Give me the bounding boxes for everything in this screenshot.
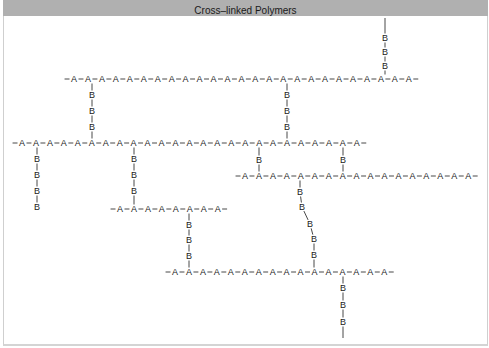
monomer-a: A (392, 74, 398, 84)
monomer-a: A (252, 74, 258, 84)
monomer-a: A (367, 267, 373, 277)
monomer-a: A (159, 204, 165, 214)
monomer-b: B (284, 106, 290, 116)
monomer-a: A (47, 138, 53, 148)
monomer-a: A (308, 74, 314, 84)
monomer-a: A (465, 171, 471, 181)
monomer-a: A (294, 74, 300, 84)
monomer-a: A (325, 267, 331, 277)
monomer-a: A (75, 138, 81, 148)
monomer-a: A (242, 138, 248, 148)
monomer-a: A (71, 74, 77, 84)
monomer-a: A (200, 267, 206, 277)
crosslink-link-c2-c3-right: B (340, 148, 346, 172)
monomer-a: A (298, 138, 304, 148)
monomer-a: A (350, 74, 356, 84)
monomer-a: A (158, 138, 164, 148)
monomer-b: B (34, 186, 40, 196)
monomer-b: B (382, 33, 388, 43)
crosslink-link-c3-c5-zigzag: BBBBB (297, 181, 317, 268)
monomer-a: A (85, 74, 91, 84)
monomer-a: A (33, 138, 39, 148)
monomer-a: A (256, 171, 262, 181)
monomer-a: A (266, 74, 272, 84)
monomer-a: A (141, 74, 147, 84)
monomer-b: B (340, 283, 346, 293)
monomer-a: A (280, 74, 286, 84)
monomer-b: B (131, 154, 137, 164)
monomer-a: A (103, 138, 109, 148)
monomer-a: A (298, 267, 304, 277)
monomer-b: B (382, 61, 388, 71)
monomer-a: A (113, 74, 119, 84)
monomer-a: A (322, 74, 328, 84)
monomer-a: A (270, 138, 276, 148)
monomer-a: A (336, 74, 342, 84)
polymer-chain-chain-4: AAAAAAAA (111, 204, 228, 214)
monomer-a: A (117, 138, 123, 148)
monomer-a: A (326, 171, 332, 181)
monomer-a: A (89, 138, 95, 148)
monomer-a: A (368, 171, 374, 181)
monomer-a: A (381, 267, 387, 277)
monomer-a: A (284, 138, 290, 148)
monomer-a: A (145, 204, 151, 214)
monomer-b: B (382, 47, 388, 57)
monomer-a: A (215, 204, 221, 214)
monomer-a: A (228, 138, 234, 148)
monomer-b: B (299, 202, 305, 212)
monomer-a: A (406, 74, 412, 84)
monomer-b: B (131, 170, 137, 180)
monomer-a: A (270, 171, 276, 181)
monomer-a: A (172, 267, 178, 277)
monomer-a: A (312, 171, 318, 181)
monomer-b: B (340, 317, 346, 327)
monomer-a: A (339, 267, 345, 277)
monomer-a: A (354, 171, 360, 181)
monomer-a: A (284, 267, 290, 277)
monomer-a: A (353, 267, 359, 277)
monomer-b: B (297, 187, 303, 197)
monomer-b: B (307, 219, 313, 229)
monomer-a: A (197, 74, 203, 84)
monomer-a: A (284, 171, 290, 181)
monomer-a: A (214, 267, 220, 277)
monomer-a: A (99, 74, 105, 84)
monomer-a: A (381, 171, 387, 181)
monomer-a: A (173, 204, 179, 214)
crosslink-link-c5-dangling: BBB (340, 277, 346, 339)
monomer-a: A (117, 204, 123, 214)
monomer-b: B (340, 300, 346, 310)
monomer-a: A (183, 74, 189, 84)
crosslink-link-c4-c5: BBB (186, 214, 192, 268)
crosslink-link-c1-c2-right: BBB (284, 84, 290, 139)
monomer-a: A (242, 267, 248, 277)
monomer-b: B (34, 202, 40, 212)
monomer-a: A (201, 204, 207, 214)
monomer-b: B (34, 154, 40, 164)
polymer-diagram: AAAAAAAAAAAAAAAAAAAAAAAAAAAAAAAAAAAAAAAA… (0, 0, 489, 348)
monomer-a: A (437, 171, 443, 181)
monomer-a: A (155, 74, 161, 84)
polymer-chain-chain-2: AAAAAAAAAAAAAAAAAAAAAAAAA (13, 138, 367, 148)
monomer-b: B (340, 155, 346, 165)
monomer-a: A (340, 138, 346, 148)
monomer-a: A (364, 74, 370, 84)
monomer-a: A (214, 138, 220, 148)
monomer-a: A (340, 171, 346, 181)
crosslink-link-top-right: BBB (382, 18, 388, 75)
monomer-a: A (378, 74, 384, 84)
crosslink-link-c2-c3-left: B (256, 148, 262, 172)
monomer-b: B (131, 186, 137, 196)
monomer-a: A (256, 267, 262, 277)
monomer-a: A (210, 74, 216, 84)
monomer-a: A (228, 267, 234, 277)
monomer-a: A (169, 74, 175, 84)
crosslink-link-c2-c4: BBB (131, 148, 137, 205)
monomer-a: A (326, 138, 332, 148)
monomer-a: A (131, 138, 137, 148)
monomer-b: B (186, 220, 192, 230)
crosslink-link-c2-dangling: BBBB (34, 148, 40, 213)
polymer-chain-chain-5: AAAAAAAAAAAAAAAA (166, 267, 394, 277)
monomer-b: B (256, 155, 262, 165)
